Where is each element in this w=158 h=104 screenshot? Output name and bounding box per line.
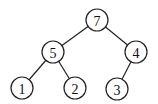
node-label: 1: [19, 82, 26, 97]
node-label: 5: [50, 46, 57, 61]
tree-node-4: 4: [125, 41, 147, 63]
tree-node-5: 5: [42, 41, 64, 63]
node-label: 3: [114, 83, 121, 98]
node-label: 2: [72, 82, 79, 97]
tree-node-7: 7: [86, 9, 108, 31]
tree-node-3: 3: [106, 78, 128, 100]
tree-node-2: 2: [64, 77, 86, 99]
node-label: 7: [94, 14, 101, 29]
node-label: 4: [133, 46, 140, 61]
tree-node-1: 1: [11, 77, 33, 99]
binary-tree-diagram: 754123: [0, 0, 158, 104]
